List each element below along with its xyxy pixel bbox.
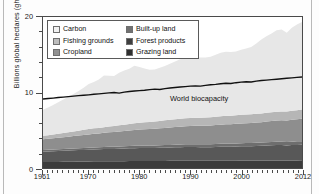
legend-label: Built-up land — [136, 25, 175, 34]
legend-item[interactable]: Fishing grounds — [53, 36, 113, 47]
x-tick-label: 1980 — [122, 172, 156, 181]
legend-column-right: Built-up landForest productsGrazing land — [126, 24, 185, 59]
x-tick-minor — [221, 170, 222, 173]
legend-label: Cropland — [63, 48, 92, 57]
legend-item[interactable]: Built-up land — [126, 24, 185, 35]
x-tick-label: 2000 — [225, 172, 259, 181]
legend-label: Grazing land — [136, 48, 176, 57]
biocapacity-line-label: World biocapacity — [170, 94, 228, 103]
legend-swatch-icon — [53, 49, 60, 56]
legend-swatch-icon — [53, 26, 60, 33]
x-tick-minor — [68, 170, 69, 173]
stacked-area-chart: Billions global hectares (gha) 01020 196… — [0, 0, 319, 194]
x-tick-minor — [165, 170, 166, 173]
legend-swatch-icon — [126, 49, 133, 56]
legend-swatch-icon — [53, 38, 60, 45]
x-tick-label: 1970 — [71, 172, 105, 181]
legend-item[interactable]: Grazing land — [126, 47, 185, 58]
legend-item[interactable]: Carbon — [53, 24, 113, 35]
x-tick-minor — [262, 170, 263, 173]
legend-item[interactable]: Forest products — [126, 36, 185, 47]
legend-swatch-icon — [126, 38, 133, 45]
x-tick-minor — [109, 170, 110, 173]
legend-swatch-icon — [126, 26, 133, 33]
x-tick-minor — [272, 170, 273, 173]
chart-legend: CarbonFishing groundsCropland Built-up l… — [47, 20, 199, 59]
legend-label: Forest products — [136, 37, 185, 46]
legend-column-left: CarbonFishing groundsCropland — [53, 24, 113, 59]
x-tick-label: 1990 — [173, 172, 207, 181]
x-tick-minor — [277, 170, 278, 173]
legend-label: Fishing grounds — [63, 37, 113, 46]
x-tick-label: 2012 — [286, 172, 319, 181]
figure-container: Billions global hectares (gha) 01020 196… — [0, 0, 319, 194]
x-tick-minor — [211, 170, 212, 173]
legend-label: Carbon — [63, 25, 86, 34]
y-tick-label: 10 — [11, 88, 33, 97]
x-tick-minor — [283, 170, 284, 173]
x-tick-minor — [216, 170, 217, 173]
x-tick-minor — [114, 170, 115, 173]
x-tick-minor — [170, 170, 171, 173]
x-tick-minor — [62, 170, 63, 173]
x-tick-minor — [267, 170, 268, 173]
x-tick-minor — [160, 170, 161, 173]
legend-item[interactable]: Cropland — [53, 47, 113, 58]
x-tick-minor — [119, 170, 120, 173]
x-tick-label: 1961 — [25, 172, 59, 181]
y-tick-label: 20 — [11, 12, 33, 21]
